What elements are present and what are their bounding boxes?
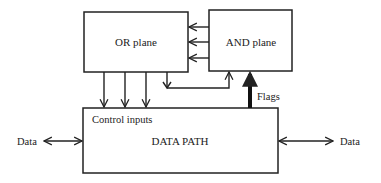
data-left-connection: Data (17, 136, 82, 147)
diagram-canvas: OR plane AND plane Control inputs DATA P… (0, 0, 381, 183)
data-left-label: Data (17, 136, 37, 147)
data-right-connection: Data (279, 136, 360, 147)
or-plane-label: OR plane (115, 36, 157, 48)
or-plane-block: OR plane (84, 12, 188, 72)
flags-connection: Flags (250, 74, 280, 108)
and-plane-block: AND plane (209, 10, 292, 71)
data-right-label: Data (340, 136, 360, 147)
and-to-or-arrows (189, 27, 209, 58)
flags-label: Flags (257, 91, 280, 102)
control-inputs-label: Control inputs (92, 114, 152, 125)
and-plane-label: AND plane (226, 36, 277, 48)
data-path-label: DATA PATH (151, 135, 208, 147)
control-input-arrows (104, 72, 146, 107)
arrow-up-icon (167, 72, 229, 88)
feedback-loop (163, 72, 229, 88)
data-path-block: Control inputs DATA PATH (83, 108, 278, 173)
